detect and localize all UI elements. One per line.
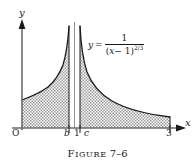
origin-label: O [12,129,19,138]
figure-container: y x O b 1 c 3 y= 1 (x− 1)2/3 FIGURE7–6 [0,0,195,166]
y-axis-label: y [19,8,25,18]
x-tick-label-c: c [84,129,89,138]
caption-word-first: F [67,148,75,159]
function-equation: y= 1 (x− 1)2/3 [88,34,144,56]
equation-equals-sign: = [93,40,105,50]
x-axis-label: x [185,118,191,128]
plot-area [0,0,195,140]
caption-number: 7–6 [107,148,128,159]
figure-caption: FIGURE7–6 [0,148,195,159]
caption-word-rest: IGURE [75,150,107,159]
equation-fraction: 1 (x− 1)2/3 [105,34,145,56]
x-tick-label-b: b [64,129,70,138]
x-tick-label-1: 1 [74,129,80,138]
x-tick-label-3: 3 [166,129,172,138]
denominator-exponent: 2/3 [134,44,143,51]
equation-denominator: (x− 1)2/3 [105,45,145,56]
denominator-minus-one: − 1 [114,46,130,56]
equation-numerator: 1 [105,34,145,43]
shaded-region-left [22,26,69,128]
y-axis-arrow-icon [19,19,26,29]
